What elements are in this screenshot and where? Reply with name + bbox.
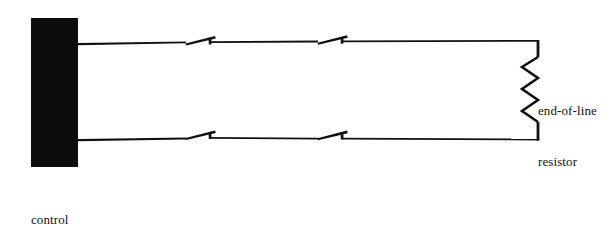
end-of-line-resistor-zigzag: [522, 57, 538, 122]
circuit-schematic-svg: [0, 0, 609, 227]
control-panel-label: control panel: [31, 177, 69, 227]
end-of-line-resistor-label: end-of-line resistor: [538, 68, 597, 204]
bottom-wire-segment-1: [78, 138, 186, 142]
top-switch-2-contact-post: [341, 37, 344, 44]
bottom-wire-segment-2: [210, 137, 319, 140]
top-wire-segment-1: [78, 41, 186, 45]
resistor-label-line2: resistor: [538, 153, 597, 170]
control-panel-block: [31, 18, 78, 167]
top-wire-segment-2: [210, 41, 319, 43]
resistor-label-line1: end-of-line: [538, 102, 597, 119]
control-panel-label-line1: control: [31, 211, 69, 227]
top-switch-1-contact-post: [209, 37, 212, 44]
top-wire-segment-3: [342, 40, 540, 42]
circuit-diagram: control panel end-of-line resistor: [0, 0, 609, 227]
bottom-wire-segment-3: [342, 138, 540, 141]
right-vertical-top: [537, 40, 540, 57]
